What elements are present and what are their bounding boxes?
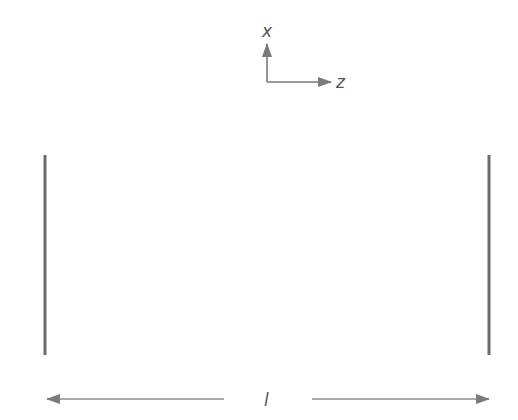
separation-label: l: [264, 390, 269, 410]
coordinate-axes: x z: [261, 21, 346, 92]
x-axis-label: x: [261, 21, 273, 41]
z-axis-label: z: [335, 72, 346, 92]
parallel-plates-diagram: x z l: [0, 0, 518, 420]
separation-dimension: l: [47, 390, 489, 410]
